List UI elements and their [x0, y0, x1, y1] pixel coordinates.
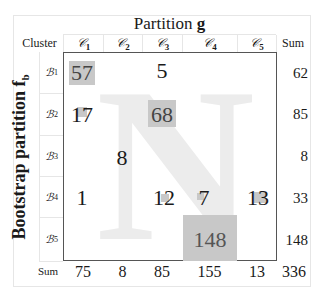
- column-subscript: 1: [86, 42, 91, 52]
- row-symbol: ℬ: [45, 233, 54, 246]
- column-subscript: 5: [259, 42, 264, 52]
- row-symbol: ℬ: [45, 150, 54, 163]
- column-sum-c2: 8: [103, 262, 142, 282]
- row-subscript: 3: [54, 152, 58, 161]
- cell-b4-c3: 12: [144, 186, 184, 210]
- cell-b3-c2: 8: [106, 146, 138, 170]
- row-sum-b2: 85: [280, 105, 308, 123]
- row-subscript: 4: [54, 193, 58, 202]
- cell-b1-c3: 5: [146, 59, 178, 83]
- row-sum-b5: 148: [280, 231, 308, 249]
- cell-b2-c3: 68: [146, 103, 178, 127]
- row-sum-b3: 8: [280, 147, 308, 165]
- column-sum-c5: 13: [237, 262, 277, 282]
- row-label-b4: ℬ4: [40, 176, 63, 217]
- title-variable: g: [197, 14, 206, 33]
- cell-b2-c1: 17: [66, 103, 98, 127]
- sum-header: Sum: [278, 35, 308, 52]
- y-axis-text: Bootstrap partition f: [9, 81, 29, 240]
- row-symbol: ℬ: [45, 66, 54, 79]
- cluster-header: Cluster: [16, 35, 63, 52]
- row-subscript: 1: [54, 68, 58, 77]
- cell-b4-c5: 13: [238, 186, 278, 210]
- row-label-b3: ℬ3: [40, 135, 63, 176]
- row-symbol: ℬ: [45, 191, 54, 204]
- row-sum-b4: 33: [280, 189, 308, 207]
- row-subscript: 5: [54, 235, 58, 244]
- column-sum-c4: 155: [182, 262, 237, 282]
- partition-title: Partition g: [63, 14, 276, 34]
- cell-b4-c4: 7: [184, 186, 224, 210]
- row-subscript: 2: [54, 110, 58, 119]
- y-axis-subscript: b: [19, 74, 31, 80]
- cell-b5-c4: 148: [184, 228, 236, 252]
- row-label-b2: ℬ2: [40, 93, 63, 135]
- column-sum-label: Sum: [38, 265, 58, 277]
- column-symbol: 𝒞: [77, 36, 86, 50]
- column-sum-c1: 75: [63, 262, 103, 282]
- row-symbol: ℬ: [45, 108, 54, 121]
- row-sum-b1: 62: [280, 64, 308, 82]
- row-label-b1: ℬ1: [40, 52, 63, 93]
- cell-b4-c1: 1: [66, 186, 98, 210]
- title-text: Partition: [134, 14, 197, 33]
- cell-b1-c1: 57: [66, 61, 98, 85]
- grand-total: 336: [276, 262, 312, 282]
- y-axis-label: Bootstrap partition fb: [9, 74, 32, 239]
- row-label-b5: ℬ5: [40, 217, 63, 262]
- column-sum-c3: 85: [142, 262, 182, 282]
